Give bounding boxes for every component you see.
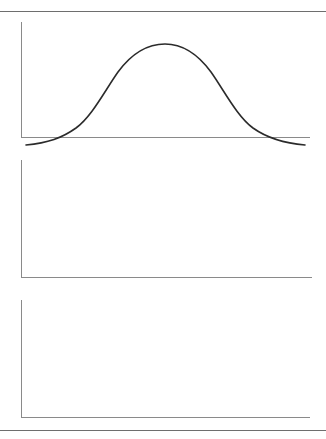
chart-symmetric-unimodal-distribution	[0, 12, 326, 152]
chart-2-canvas	[0, 152, 326, 292]
figure-page	[0, 0, 326, 439]
chart-bimodal-distribution	[0, 152, 326, 292]
distribution-figure-stack	[0, 12, 326, 430]
chart-right-skewed-distribution	[0, 292, 326, 432]
chart-1-canvas	[0, 12, 326, 152]
chart-3-canvas	[0, 292, 326, 432]
bottom-divider-rule	[0, 430, 326, 431]
chart-1-curve	[26, 44, 305, 145]
